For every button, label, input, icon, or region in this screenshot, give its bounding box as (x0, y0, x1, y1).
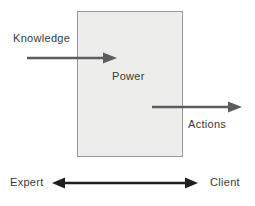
expert-client-arrow-icon (52, 178, 198, 189)
expert-label: Expert (10, 176, 44, 189)
client-label: Client (210, 176, 240, 189)
actions-arrow-icon (152, 102, 242, 113)
knowledge-arrow-icon (27, 53, 117, 64)
actions-label: Actions (188, 118, 226, 131)
knowledge-label: Knowledge (13, 32, 70, 45)
diagram-canvas: Knowledge Power Actions Expert Client (0, 0, 255, 206)
power-label: Power (112, 70, 145, 83)
